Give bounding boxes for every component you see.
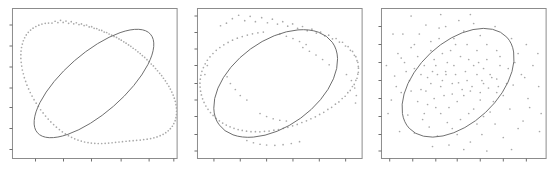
data-point [78,24,80,26]
data-point [136,140,138,142]
data-point [162,134,164,136]
data-point [355,95,357,97]
data-point [401,57,403,59]
data-point [440,113,442,115]
data-point [22,40,24,42]
data-point [45,115,47,117]
data-point [273,129,275,131]
data-point [494,26,496,28]
data-point [410,90,412,92]
data-point [171,125,173,127]
data-point [424,65,426,67]
data-point [218,120,220,122]
panel-1-points [20,20,177,145]
data-point [298,41,300,43]
data-point [321,59,323,61]
data-point [42,112,44,114]
data-point [159,135,161,137]
data-point [237,129,239,131]
data-point [355,80,357,82]
data-point [349,90,351,92]
data-point [344,45,346,47]
data-point [305,44,307,46]
data-point [176,107,178,109]
data-point [463,95,465,97]
data-point [386,65,388,67]
data-point [209,112,211,114]
scatter-panel-1 [0,0,185,175]
data-point [265,116,267,118]
data-point [323,111,325,113]
data-point [357,67,359,69]
data-point [76,22,78,24]
data-point [111,142,113,144]
data-point [249,15,251,17]
data-point [483,83,485,85]
data-point [457,101,459,103]
data-point [438,38,440,40]
data-point [246,140,248,142]
data-point [276,23,278,25]
data-point [88,26,90,28]
data-point [143,139,145,141]
data-point [96,28,98,30]
data-point [522,120,524,122]
data-point [262,31,264,33]
data-point [113,36,115,38]
data-point [129,140,131,142]
data-point [108,142,110,144]
data-point [108,33,110,35]
data-point [354,102,356,104]
data-point [491,77,493,79]
data-point [93,27,95,29]
data-point [457,134,459,136]
data-point [209,56,211,58]
data-point [215,50,217,52]
data-point [80,140,82,142]
data-point [470,14,472,16]
data-point [476,74,478,76]
panel-1-content [18,12,178,156]
data-point [478,62,480,64]
data-point [157,70,159,72]
data-point [268,130,270,132]
data-point [305,120,307,122]
data-point [166,83,168,85]
data-point [115,141,117,143]
data-point [410,47,412,49]
data-point [122,141,124,143]
data-point [206,65,208,67]
data-point [167,130,169,132]
data-point [453,38,455,40]
data-point [414,44,416,46]
data-point [508,68,510,70]
data-point [447,122,449,124]
data-point [466,80,468,82]
data-point [458,82,460,84]
data-point [170,128,172,130]
data-point [356,77,358,79]
data-point [65,20,67,22]
data-point [175,117,177,119]
data-point [159,72,161,74]
data-point [468,113,470,115]
data-point [74,138,76,140]
data-point [139,139,141,141]
data-point [353,54,355,56]
data-point [443,95,445,97]
data-point [176,114,178,116]
data-point [432,71,434,73]
data-point [496,50,498,52]
data-point [480,99,482,101]
data-point [532,65,534,67]
data-point [104,143,106,145]
data-point [427,77,429,79]
panel-2-content [194,8,359,160]
data-point [521,74,523,76]
panel-2-fitted-ellipse [194,8,357,160]
data-point [486,150,488,152]
data-point [231,39,233,41]
data-point [54,20,56,22]
data-point [200,74,202,76]
data-point [225,22,227,24]
